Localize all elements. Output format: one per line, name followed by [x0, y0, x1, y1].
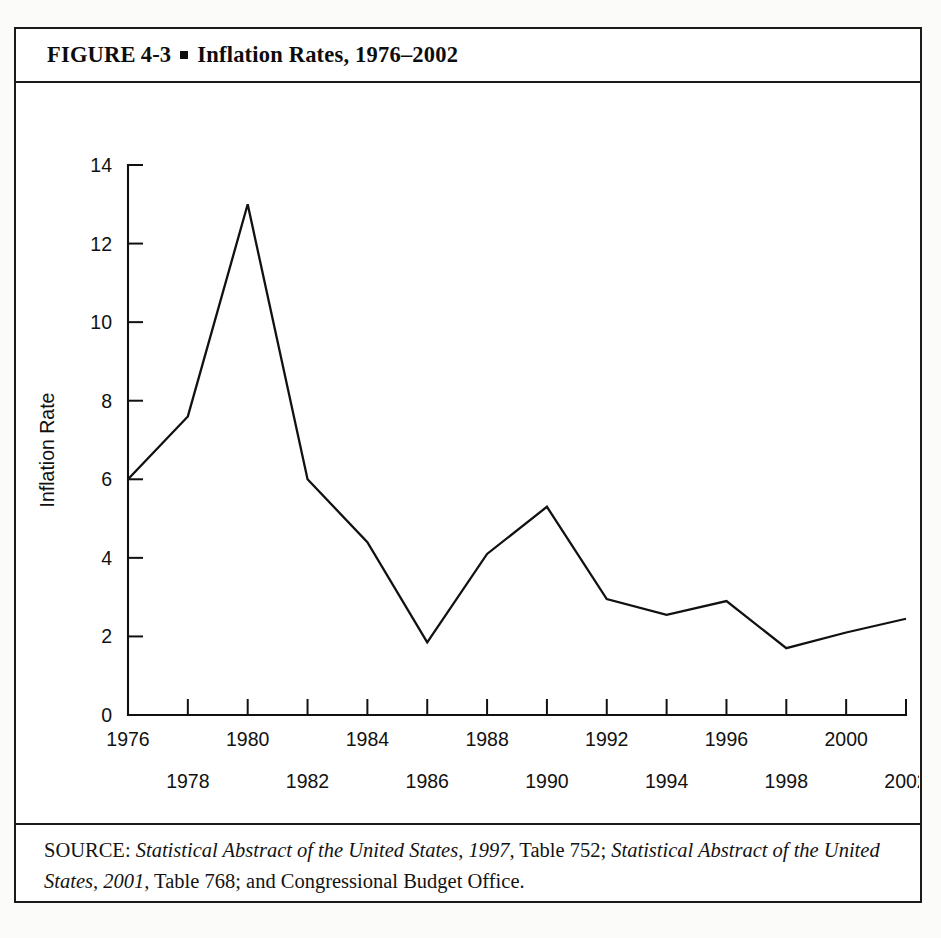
x-tick-label-upper: 1996	[705, 728, 748, 750]
source-divider	[16, 823, 920, 825]
source-ref1-title: Statistical Abstract of the United State…	[136, 839, 515, 861]
x-tick-label-lower: 1990	[525, 770, 569, 792]
inflation-data-line	[128, 204, 906, 648]
x-tick-label-upper: 1980	[226, 728, 270, 750]
y-tick-label: 14	[90, 154, 112, 176]
x-tick-label-lower: 1986	[406, 770, 449, 792]
x-tick-label-upper: 1976	[106, 728, 149, 750]
y-tick-label: 4	[101, 547, 112, 569]
bullet-square-icon	[180, 51, 188, 59]
page-background: FIGURE4-3Inflation Rates, 1976–2002 0246…	[0, 0, 941, 938]
y-tick-label: 0	[101, 704, 112, 726]
y-tick-label: 2	[101, 625, 112, 647]
x-tick-label-upper: 1984	[346, 728, 390, 750]
x-tick-label-lower: 1978	[166, 770, 209, 792]
source-prefix: SOURCE:	[44, 839, 131, 861]
x-tick-label-upper: 1988	[465, 728, 508, 750]
source-note: SOURCE: Statistical Abstract of the Unit…	[44, 835, 889, 897]
y-tick-label: 12	[90, 233, 112, 255]
figure-title-text: Inflation Rates, 1976–2002	[197, 42, 458, 67]
figure-number: 4-3	[141, 42, 172, 67]
x-tick-label-upper: 2000	[824, 728, 868, 750]
figure-title: FIGURE4-3Inflation Rates, 1976–2002	[16, 42, 458, 68]
source-ref2-rest: Table 768; and Congressional Budget Offi…	[149, 870, 524, 892]
chart-plot-area: 02468101214Inflation Rate197619781980198…	[16, 83, 919, 823]
figure-title-bar: FIGURE4-3Inflation Rates, 1976–2002	[16, 29, 920, 83]
inflation-line-chart: 02468101214Inflation Rate197619781980198…	[16, 83, 919, 823]
x-tick-label-lower: 1994	[645, 770, 689, 792]
source-ref1-rest: Table 752;	[515, 839, 612, 861]
x-tick-label-lower: 2002	[884, 770, 919, 792]
y-axis-title: Inflation Rate	[36, 393, 58, 508]
x-tick-label-lower: 1982	[286, 770, 329, 792]
figure-label: FIGURE	[47, 42, 136, 67]
x-tick-label-upper: 1992	[585, 728, 628, 750]
x-tick-label-lower: 1998	[765, 770, 808, 792]
y-tick-label: 6	[101, 468, 112, 490]
chart-axes	[128, 165, 906, 715]
y-tick-label: 8	[101, 390, 112, 412]
figure-frame: FIGURE4-3Inflation Rates, 1976–2002 0246…	[14, 27, 922, 903]
y-tick-label: 10	[90, 311, 112, 333]
